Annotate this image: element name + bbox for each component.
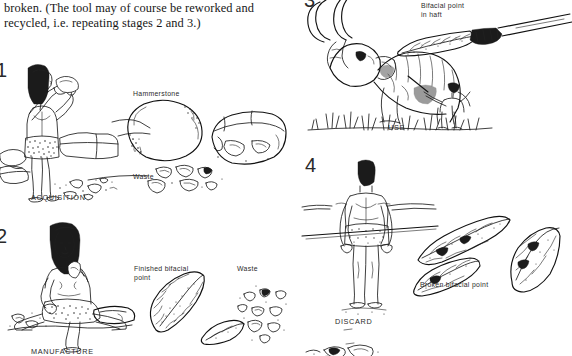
stage-3-illustration	[302, 0, 502, 136]
stage-number-1: 1	[0, 60, 7, 80]
stage-3-hafted-point-illustration	[392, 12, 572, 60]
label-bifacial-point-in-haft: Bifacial point in haft	[421, 2, 464, 19]
stage-caption-acquisition: ACQUISITION	[31, 193, 86, 202]
stage-caption-manufacture: MANUFACTURE	[31, 347, 94, 356]
label-waste-stage-2: Waste	[237, 265, 258, 274]
stage-2-illustration	[8, 222, 138, 350]
stage-caption-use: USE	[388, 123, 405, 132]
label-waste-stage-1: Waste	[133, 173, 154, 182]
label-broken-bifacial-point: Broken bifacial point	[420, 281, 488, 290]
stage-number-3: 3	[304, 0, 315, 10]
stage-4-illustration	[302, 152, 452, 352]
stage-1-illustration	[0, 62, 200, 202]
figure-caption-text: broken. (The tool may of course be rewor…	[4, 1, 288, 31]
stage-4-broken-point-illustration	[412, 206, 570, 314]
label-finished-bifacial-point: Finished bifacial point	[134, 265, 189, 282]
stage-number-4: 4	[305, 155, 316, 175]
stage-caption-discard: DISCARD	[335, 317, 372, 326]
label-hammerstone: Hammerstone	[133, 90, 180, 99]
stage-number-2: 2	[0, 226, 7, 246]
